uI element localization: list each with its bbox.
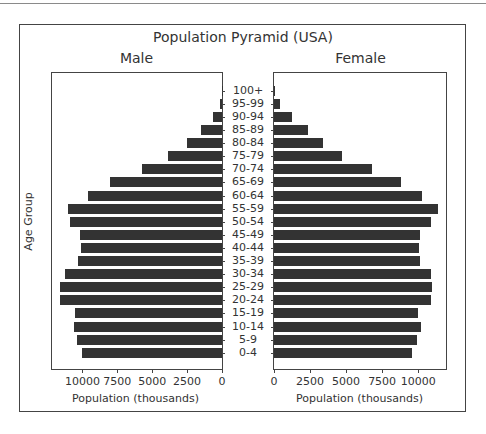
male-bar-40-44 (81, 243, 222, 253)
y-tick-mark (222, 117, 225, 118)
male-bar-25-29 (60, 282, 222, 292)
y-tick-mark (222, 182, 225, 183)
female-bar-55-59 (274, 204, 438, 214)
x-tick-mark (82, 370, 83, 373)
y-tick-mark (222, 353, 225, 354)
y-tick-mark (222, 169, 225, 170)
age-group-label: 30-34 (218, 268, 278, 280)
age-group-label: 85-89 (218, 124, 278, 136)
male-bar-70-74 (142, 164, 222, 174)
y-tick-mark (222, 91, 225, 92)
female-bar-50-54 (274, 217, 431, 227)
x-tick-mark (222, 370, 223, 373)
age-group-label: 35-39 (218, 255, 278, 267)
female-bar-20-24 (274, 295, 431, 305)
age-group-label: 95-99 (218, 98, 278, 110)
age-group-label: 20-24 (218, 294, 278, 306)
y-axis-label: Age Group (22, 182, 35, 262)
y-tick-mark (222, 143, 225, 144)
female-bar-30-34 (274, 269, 431, 279)
male-bar-80-84 (187, 138, 222, 148)
age-group-label: 5-9 (218, 334, 278, 346)
female-x-axis-label: Population (thousands) (273, 392, 446, 405)
y-tick-mark (222, 261, 225, 262)
female-bar-45-49 (274, 230, 420, 240)
y-tick-mark (271, 300, 274, 301)
x-tick-mark (152, 370, 153, 373)
age-group-label: 50-54 (218, 216, 278, 228)
y-tick-mark (271, 287, 274, 288)
male-bar-15-19 (75, 308, 222, 318)
y-tick-mark (271, 91, 274, 92)
female-bar-70-74 (274, 164, 372, 174)
y-tick-mark (271, 248, 274, 249)
age-group-label: 100+ (218, 85, 278, 97)
male-x-tick-label: 0 (197, 376, 247, 388)
male-bar-45-49 (80, 230, 222, 240)
age-group-label: 90-94 (218, 111, 278, 123)
y-tick-mark (271, 209, 274, 210)
age-group-label: 80-84 (218, 137, 278, 149)
male-bar-20-24 (60, 295, 222, 305)
female-bar-5-9 (274, 335, 417, 345)
y-tick-mark (222, 327, 225, 328)
male-bar-5-9 (77, 335, 222, 345)
age-group-label: 70-74 (218, 163, 278, 175)
age-group-label: 65-69 (218, 176, 278, 188)
male-bar-55-59 (68, 204, 222, 214)
age-group-label: 25-29 (218, 281, 278, 293)
age-group-label: 15-19 (218, 307, 278, 319)
female-bar-85-89 (274, 125, 308, 135)
male-bar-50-54 (70, 217, 222, 227)
female-x-tick-label: 10000 (393, 376, 443, 388)
y-tick-mark (222, 235, 225, 236)
male-bar-60-64 (88, 191, 222, 201)
age-group-label: 45-49 (218, 229, 278, 241)
female-subplot-title: Female (274, 50, 447, 66)
y-tick-mark (222, 313, 225, 314)
x-tick-mark (187, 370, 188, 373)
age-group-label: 0-4 (218, 347, 278, 359)
y-tick-mark (271, 130, 274, 131)
age-group-label: 75-79 (218, 150, 278, 162)
female-bar-60-64 (274, 191, 422, 201)
y-tick-mark (271, 117, 274, 118)
male-x-axis-label: Population (thousands) (49, 392, 222, 405)
y-tick-mark (222, 300, 225, 301)
female-bar-75-79 (274, 151, 342, 161)
y-tick-mark (271, 274, 274, 275)
male-bar-35-39 (78, 256, 222, 266)
female-bar-25-29 (274, 282, 432, 292)
y-tick-mark (271, 235, 274, 236)
male-bar-10-14 (74, 322, 222, 332)
y-tick-mark (271, 182, 274, 183)
male-bar-30-34 (65, 269, 222, 279)
y-tick-mark (222, 222, 225, 223)
age-group-label: 55-59 (218, 203, 278, 215)
y-tick-mark (271, 196, 274, 197)
female-bar-35-39 (274, 256, 420, 266)
female-bar-0-4 (274, 348, 412, 358)
y-tick-mark (222, 248, 225, 249)
male-subplot-title: Male (51, 50, 222, 66)
male-bar-65-69 (110, 177, 222, 187)
y-tick-mark (222, 156, 225, 157)
x-tick-mark (310, 370, 311, 373)
y-tick-mark (271, 156, 274, 157)
y-tick-mark (271, 222, 274, 223)
y-tick-mark (271, 143, 274, 144)
y-tick-mark (222, 209, 225, 210)
y-tick-mark (271, 327, 274, 328)
y-tick-mark (222, 130, 225, 131)
x-tick-mark (346, 370, 347, 373)
y-tick-mark (222, 340, 225, 341)
female-bar-40-44 (274, 243, 419, 253)
x-tick-mark (117, 370, 118, 373)
male-bar-0-4 (82, 348, 222, 358)
y-tick-mark (222, 274, 225, 275)
age-group-label: 60-64 (218, 190, 278, 202)
y-tick-mark (271, 261, 274, 262)
y-tick-mark (271, 340, 274, 341)
y-tick-mark (222, 287, 225, 288)
y-tick-mark (222, 104, 225, 105)
